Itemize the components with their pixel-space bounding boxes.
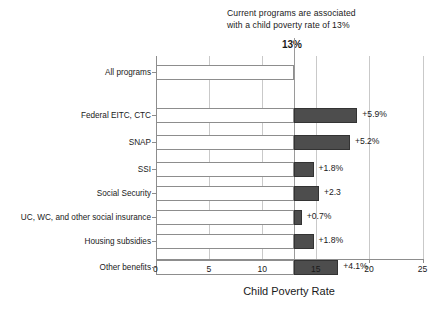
x-axis-title: Child Poverty Rate <box>155 285 423 297</box>
bar-value-label: +1.8% <box>319 235 344 245</box>
category-label: Other benefits <box>100 263 151 272</box>
baseline-marker-label: 13% <box>232 39 352 50</box>
gridline-25 <box>423 56 424 259</box>
y-tick <box>152 217 156 218</box>
x-tick-label-20: 20 <box>349 264 389 274</box>
bar-value-label: +2.3 <box>324 187 341 197</box>
bar-value-label: +5.9% <box>362 109 387 119</box>
bar-row[interactable]: +5.9% <box>156 108 423 123</box>
bar-segment-increase <box>294 186 319 201</box>
bar-row[interactable]: +1.8% <box>156 162 423 177</box>
category-label: Federal EITC, CTC <box>81 111 151 120</box>
bar-segment-baseline <box>156 65 295 80</box>
category-label: Housing subsidies <box>85 237 151 246</box>
bar-segment-baseline <box>156 234 295 249</box>
y-tick <box>152 193 156 194</box>
chart-annotation: Current programs are associated with a c… <box>227 8 427 31</box>
bar-row[interactable]: +2.3 <box>156 186 423 201</box>
bar-value-label: +5.2% <box>355 136 380 146</box>
y-tick <box>152 241 156 242</box>
gridline-15 <box>316 56 317 259</box>
bar-segment-baseline <box>156 108 295 123</box>
bar-row[interactable] <box>156 65 423 80</box>
bar-row[interactable]: +5.2% <box>156 135 423 150</box>
gridline-0 <box>156 56 157 259</box>
category-label: UC, WC, and other social insurance <box>21 213 151 222</box>
y-tick <box>152 169 156 170</box>
bar-row[interactable]: +0.7% <box>156 210 423 225</box>
y-tick <box>152 142 156 143</box>
gridline-10 <box>262 56 263 259</box>
annotation-line-2: with a child poverty rate of 13% <box>227 20 427 32</box>
bar-segment-baseline <box>156 162 295 177</box>
bar-segment-baseline <box>156 186 295 201</box>
y-tick <box>152 267 156 268</box>
x-tick-25 <box>423 259 424 263</box>
bar-segment-increase <box>294 234 313 249</box>
bar-segment-increase <box>294 108 357 123</box>
x-tick-label-5: 5 <box>189 264 229 274</box>
bar-row[interactable]: +1.8% <box>156 234 423 249</box>
gridline-5 <box>209 56 210 259</box>
y-tick <box>152 72 156 73</box>
category-label: Social Security <box>97 189 151 198</box>
x-tick-label-15: 15 <box>296 264 336 274</box>
gridline-20 <box>369 56 370 259</box>
annotation-line-1: Current programs are associated <box>227 8 427 20</box>
category-label: SNAP <box>129 138 151 147</box>
bar-segment-baseline <box>156 135 295 150</box>
chart-figure: Current programs are associated with a c… <box>0 0 442 312</box>
bar-value-label: +1.8% <box>319 163 344 173</box>
bar-segment-baseline <box>156 210 295 225</box>
bar-segment-increase <box>294 135 350 150</box>
x-tick-label-25: 25 <box>403 264 442 274</box>
category-label: All programs <box>105 68 151 77</box>
bar-value-label: +0.7% <box>307 211 332 221</box>
x-tick-label-10: 10 <box>242 264 282 274</box>
y-tick <box>152 115 156 116</box>
category-label: SSI <box>138 165 151 174</box>
bar-segment-increase <box>294 210 301 225</box>
bar-segment-increase <box>294 162 313 177</box>
plot-area: +5.9%+5.2%+1.8%+2.3+0.7%+1.8%+4.1% <box>156 56 423 259</box>
